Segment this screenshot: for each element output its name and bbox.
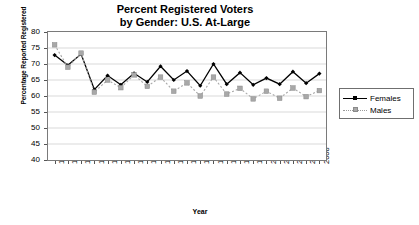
data-point-males bbox=[145, 84, 150, 89]
x-tick-mark bbox=[253, 161, 254, 164]
x-tick-mark bbox=[68, 161, 69, 164]
legend-label-females: Females bbox=[368, 94, 401, 103]
x-tick-mark bbox=[213, 161, 214, 164]
square-marker-icon bbox=[353, 107, 358, 112]
data-point-males bbox=[171, 89, 176, 94]
legend-item-females: Females bbox=[342, 92, 411, 104]
data-point-males bbox=[211, 75, 216, 80]
data-point-males bbox=[277, 96, 282, 101]
x-tick-mark bbox=[161, 161, 162, 164]
data-point-males bbox=[92, 90, 97, 95]
x-tick-mark bbox=[200, 161, 201, 164]
x-tick-mark bbox=[94, 161, 95, 164]
y-tick-70: 70 bbox=[18, 60, 40, 68]
x-tick-mark bbox=[147, 161, 148, 164]
y-tick-55: 55 bbox=[18, 108, 40, 116]
diamond-marker-icon bbox=[353, 96, 357, 100]
y-tick-65: 65 bbox=[18, 76, 40, 84]
x-tick-mark bbox=[108, 161, 109, 164]
y-tick-50: 50 bbox=[18, 124, 40, 132]
data-point-males bbox=[291, 86, 296, 91]
x-tick-mark bbox=[174, 161, 175, 164]
data-point-males bbox=[119, 85, 124, 90]
x-tick-mark bbox=[240, 161, 241, 164]
legend-key-males bbox=[342, 105, 368, 115]
legend-label-males: Males bbox=[368, 106, 391, 115]
x-tick-mark bbox=[266, 161, 267, 164]
data-point-males bbox=[238, 86, 243, 91]
x-tick-mark bbox=[293, 161, 294, 164]
data-point-males bbox=[251, 97, 256, 102]
chart-title-line-1: Percent Registered Voters bbox=[60, 3, 310, 16]
x-tick-mark bbox=[280, 161, 281, 164]
data-point-males bbox=[317, 88, 322, 93]
x-tick-mark bbox=[227, 161, 228, 164]
data-point-males bbox=[185, 81, 190, 86]
legend-key-females bbox=[342, 93, 368, 103]
data-point-males bbox=[304, 94, 309, 99]
data-point-males bbox=[132, 73, 137, 78]
data-point-males bbox=[264, 89, 269, 94]
x-tick-mark bbox=[121, 161, 122, 164]
data-point-males bbox=[105, 78, 110, 83]
x-tick-mark bbox=[306, 161, 307, 164]
data-point-males bbox=[66, 65, 71, 70]
y-tick-60: 60 bbox=[18, 92, 40, 100]
x-tick-mark bbox=[187, 161, 188, 164]
x-tick-mark bbox=[81, 161, 82, 164]
y-tick-45: 45 bbox=[18, 140, 40, 148]
data-point-males bbox=[79, 51, 84, 56]
data-point-males bbox=[224, 92, 229, 97]
chart-legend: Females Males bbox=[339, 88, 414, 119]
x-tick-mark bbox=[319, 161, 320, 164]
y-tick-40: 40 bbox=[18, 156, 40, 164]
chart-title-line-2: by Gender: U.S. At-Large bbox=[60, 16, 310, 29]
x-axis-label: Year bbox=[150, 208, 250, 215]
data-point-males bbox=[158, 75, 163, 80]
plot-area bbox=[47, 31, 327, 161]
chart-title: Percent Registered Voters by Gender: U.S… bbox=[60, 3, 310, 29]
legend-item-males: Males bbox=[342, 104, 411, 116]
data-point-males bbox=[198, 94, 203, 99]
x-tick-mark bbox=[134, 161, 135, 164]
x-tick-mark bbox=[55, 161, 56, 164]
data-point-males bbox=[52, 43, 57, 48]
y-tick-80: 80 bbox=[18, 28, 40, 36]
y-tick-75: 75 bbox=[18, 44, 40, 52]
